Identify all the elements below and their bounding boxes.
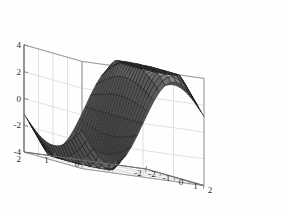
axis-tick-label: 2 xyxy=(17,67,22,77)
figure-canvas: -4-2024210-1-2-2-1012 xyxy=(0,0,286,216)
axis-tick-label: 2 xyxy=(208,185,213,195)
axis-tick-label: -1 xyxy=(163,173,171,183)
axis-tick-label: 0 xyxy=(179,177,184,187)
axis-tick-label: 1 xyxy=(44,155,49,165)
axis-tick-label: 1 xyxy=(193,181,198,191)
axis-tick-label: 0 xyxy=(17,94,22,104)
surface-plot-svg[interactable]: -4-2024210-1-2-2-1012 xyxy=(0,0,286,216)
surface-mesh xyxy=(24,61,204,170)
axis-tick-label: 2 xyxy=(17,154,22,164)
axis-tick-label: -1 xyxy=(104,163,112,173)
axis-tick-label: 0 xyxy=(75,159,80,169)
axis-tick-label: -2 xyxy=(148,169,156,179)
axis-tick-label: -2 xyxy=(14,120,22,130)
axis-tick-label: 4 xyxy=(17,40,22,50)
axis-tick-label: -2 xyxy=(134,168,142,178)
